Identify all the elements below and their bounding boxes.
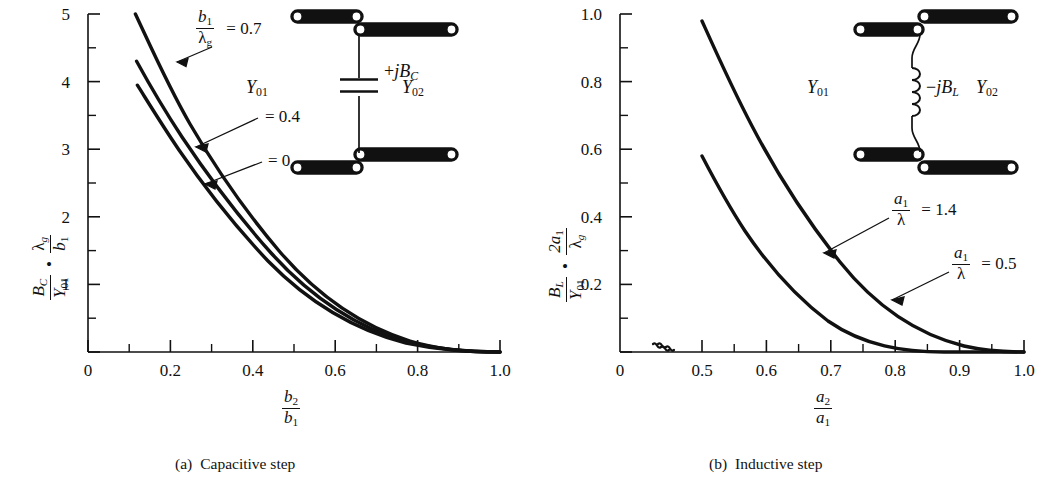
y-axis-title-b-frac2: 2a1 λg [546,228,587,255]
x-title-a-den-sub: 1 [293,416,299,428]
y-tick-label-a-2: 2 [48,209,70,226]
y-title-a-den2: b [50,242,69,251]
waveguide-bar-upper-left [291,10,363,23]
x-title-a-den: b [284,408,293,427]
x-title-a-num-sub: 2 [293,395,299,407]
annotation-leaders-b [824,218,949,305]
y-title-b-den1-sub: 01 [574,279,586,290]
x-tick-label-b-0: 0 [600,362,640,379]
circuit-label-b-jB: jB [936,77,952,97]
y-title-b-num2: 2a [545,236,564,253]
waveguide-bar-upper-right [354,23,458,36]
curve-label-a-0.7-frac: b1 λg [196,8,214,49]
inductor-icon [912,68,920,116]
circuit-label-a-Y01-sym: Y [246,77,256,97]
curve-label-a-0.7: b1 λg = 0.7 [196,8,261,49]
x-axis-title-b: a2 a1 [814,388,832,429]
x-axis-title-a: b2 b1 [282,388,300,429]
curve-label-a-0.4: = 0.4 [265,108,300,125]
y-tick-label-a-5: 5 [48,6,70,23]
circuit-label-b-Y02-sub: 02 [986,85,998,99]
panel-caption-a-tag: (a) [175,455,192,472]
y-title-a-num1: B [29,286,48,296]
x-tick-label-b-1.0: 1.0 [1004,362,1044,379]
y-title-b-den2: λ [566,240,585,248]
curve-label-b-1.4-den: λ [897,210,905,229]
curve-label-b-0.5-eq: = 0.5 [974,255,1016,272]
panel-caption-a: (a)Capacitive step [175,455,295,473]
waveguide-bar-upper-right-b [918,10,1018,23]
x-tick-label-a-0: 0 [68,362,108,379]
y-title-b-num1-sub: L [553,281,565,287]
y-title-a-num2-sub: g [37,237,49,243]
curve-label-b-0.5: a1 λ = 0.5 [952,244,1016,282]
waveguide-bar-lower-left [291,161,363,174]
axes-b [620,14,1024,352]
panel-a-graphics [0,0,524,501]
y-title-a-num1-sub: C [37,279,49,286]
y-title-a-den1-sub: 01 [58,277,70,288]
x-tick-label-b-0.9: 0.9 [940,362,980,379]
panel-inductive-step: 1.0 0.8 0.6 0.4 0.2 0 0.5 0.6 0.7 0.8 0.… [524,0,1048,501]
x-tick-label-b-0.7: 0.7 [811,362,851,379]
y-axis-title-a-dot: • [40,257,60,271]
y-title-b-num2-sub: 1 [553,230,565,236]
x-tick-label-a-0.4: 0.4 [233,362,273,379]
y-axis-title-b: BL Y01 • 2a1 λg [546,228,587,302]
curve-label-b-1.4-eq: = 1.4 [914,201,956,218]
curve-b1-lambda-0.4 [137,61,500,352]
capacitor-icon [340,80,378,92]
curve-label-a-0.7-eq: = 0.7 [218,20,261,37]
curve-label-a-0.7-num-sub: 1 [207,15,213,27]
x-tick-label-b-0.6: 0.6 [746,362,786,379]
panel-caption-b: (b)Inductive step [709,455,822,473]
y-title-a-den2-sub: 1 [58,237,70,243]
curve-label-a-0.7-num: b [198,7,207,26]
circuit-label-b-jBL: −jBL [926,78,959,99]
panel-capacitive-step: 5 4 3 2 1 0 0.2 0.4 0.6 0.8 1.0 BC Y01 •… [0,0,524,501]
waveguide-bar-lower-left-b [854,148,924,161]
y-minor-ticks-a [88,48,96,318]
x-title-b-num-sub: 2 [825,395,831,407]
y-axis-title-a-frac1: BC Y01 [30,275,71,300]
y-tick-label-b-1.0: 1.0 [564,6,602,23]
curve-label-b-1.4-num-sub: 1 [903,197,909,209]
y-title-b-num1: B [545,288,564,298]
panel-caption-b-text: Inductive step [735,455,822,472]
y-tick-label-a-4: 4 [48,74,70,91]
circuit-label-a-jB-sub: C [410,69,418,83]
circuit-label-a-jBC: +jBC [384,62,418,83]
curve-label-b-1.4-frac: a1 λ [892,190,910,228]
y-axis-title-b-frac1: BL Y01 [546,277,587,302]
y-tick-label-b-0.6: 0.6 [564,141,602,158]
curve-label-a-0: = 0 [268,152,290,169]
circuit-label-a-sign: + [384,61,394,81]
circuit-label-b-jB-sub: L [952,85,959,99]
curve-a1-lambda-1.4 [702,21,1024,352]
x-tick-label-a-0.8: 0.8 [398,362,438,379]
circuit-label-a-Y01-sub: 01 [256,85,268,99]
y-tick-label-b-0.8: 0.8 [564,74,602,91]
x-tick-label-b-0.5: 0.5 [682,362,722,379]
x-title-b-den: a [816,408,825,427]
curve-label-a-0.7-den-sub: g [206,36,212,48]
curve-label-b-0.5-num-sub: 1 [963,251,969,263]
x-title-b-num: a [816,387,825,406]
y-title-a-num2: λ [29,242,48,250]
axes-a [88,14,500,352]
x-tick-label-b-0.8: 0.8 [875,362,915,379]
panel-caption-b-tag: (b) [709,455,727,472]
circuit-label-b-Y01-sym: Y [807,77,817,97]
x-axis-break-icon [653,343,674,350]
waveguide-bar-upper-left-b [854,23,924,36]
curve-label-b-0.5-num: a [954,243,963,262]
curve-label-b-1.4-num: a [894,189,903,208]
y-axis-title-b-dot: • [556,259,576,273]
waveguide-bar-lower-right [354,148,458,161]
circuit-label-b-Y01: Y01 [807,78,829,99]
y-title-b-den1: Y [566,291,585,300]
circuit-label-a-Y02-sub: 02 [412,85,424,99]
x-tick-label-a-0.2: 0.2 [150,362,190,379]
panel-caption-a-text: Capacitive step [200,455,295,472]
circuit-label-b-Y01-sub: 01 [817,85,829,99]
